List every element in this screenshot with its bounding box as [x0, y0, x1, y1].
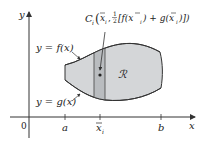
upper-curve-label: y = f(x) — [35, 42, 74, 53]
tick-label-xi: x i — [96, 122, 104, 135]
f-label-leader — [72, 52, 80, 59]
x-axis-label: x — [189, 120, 195, 131]
svg-text:i: i — [102, 128, 104, 135]
centroid-label: C i ( x i , 1 2 [f(x i ) + g(x i )]) — [85, 10, 190, 26]
region-label: ℛ — [118, 68, 128, 81]
origin-label: 0 — [21, 121, 27, 131]
tick-label-b: b — [158, 122, 164, 133]
svg-text:)]): )]) — [178, 13, 190, 23]
svg-text:,: , — [108, 13, 111, 23]
region-r — [65, 43, 162, 100]
svg-text:1: 1 — [113, 10, 117, 17]
svg-text:i: i — [92, 19, 94, 26]
svg-text:[f(x: [f(x — [118, 13, 133, 23]
svg-text:2: 2 — [113, 17, 117, 24]
centroid-point — [98, 73, 101, 76]
svg-text:(: ( — [95, 12, 100, 26]
centroid-diagram: y x 0 a x i b y = f(x) y = g(x) ℛ C i ( … — [0, 0, 202, 146]
tick-label-a: a — [62, 122, 68, 133]
svg-text:i: i — [176, 19, 178, 25]
y-axis-label: y — [18, 9, 25, 20]
svg-text:) + g(x: ) + g(x — [142, 13, 174, 23]
lower-curve-label: y = g(x) — [35, 96, 76, 107]
svg-text:i: i — [140, 19, 142, 25]
svg-text:i: i — [105, 19, 107, 25]
